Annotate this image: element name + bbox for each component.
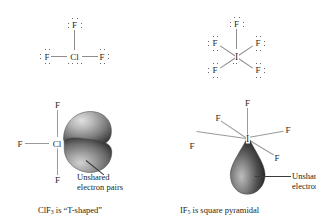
lone-pair-dot [256, 77, 257, 78]
annotation-line-1: Unshared [292, 171, 316, 181]
leader-line-unshared-pair [255, 176, 291, 177]
lone-pair-dot [108, 54, 109, 55]
lone-pair-dot [260, 63, 261, 64]
lone-pair-dot [208, 45, 209, 46]
central-lone-pair-dot [72, 63, 73, 64]
unshared-electron-pair-lobes [62, 110, 114, 174]
bond-cl-f-top [57, 110, 58, 137]
atom-f-lower-left: F [212, 66, 218, 75]
caption-clf3: ClF3 is “T-shaped” [38, 205, 102, 215]
unshared-electron-pair-lobe [229, 134, 267, 195]
annotation-unshared-electron-pairs: Unshared electron pairs [77, 172, 123, 192]
atom-f-lower-right: F [255, 66, 261, 75]
atom-f-back-left: F [215, 114, 221, 123]
atom-f-upper-right: F [255, 39, 261, 48]
lone-pair-dot [213, 50, 214, 51]
lone-pair-dot [217, 50, 218, 51]
atom-f-upper-left: F [212, 39, 218, 48]
central-lone-pair-dot [236, 63, 237, 64]
central-lone-pair-dot [77, 63, 78, 64]
lone-pair-dot [260, 77, 261, 78]
lone-pair-dot [217, 63, 218, 64]
panel-if5-lewis: F F F I F F [158, 0, 316, 90]
lone-pair-dot [213, 77, 214, 78]
central-lone-pair-dot [233, 63, 234, 64]
lone-pair-dot [239, 17, 240, 18]
lone-pair-dot [213, 63, 214, 64]
atom-f-top: F [71, 21, 77, 30]
caption-formula-prefix: IF [180, 205, 188, 215]
bond-cl-f-right [82, 56, 98, 57]
atom-f-left: F [189, 142, 195, 151]
lone-pair-dot [208, 72, 209, 73]
lone-pair-dot [217, 77, 218, 78]
annotation-line-2: electron pairs [77, 182, 123, 192]
caption-text-suffix: is “T-shaped” [54, 205, 102, 215]
atom-f-apical: F [233, 20, 239, 29]
bond-cl-f-bottom [57, 148, 58, 175]
atom-cl-center: Cl [70, 52, 80, 61]
lone-pair-dot [256, 50, 257, 51]
lone-pair-dot [40, 54, 41, 55]
atom-f-left: F [44, 52, 50, 61]
atom-f-apical: F [244, 99, 250, 108]
lone-pair-dot [230, 26, 231, 27]
lone-pair-dot [81, 23, 82, 24]
lone-pair-dot [108, 58, 109, 59]
lone-pair-dot [264, 72, 265, 73]
annotation-line-2: electron pair [292, 181, 316, 191]
caption-text-suffix: is square pyramidal [190, 205, 259, 215]
central-lone-pair-dot [68, 63, 69, 64]
lone-pair-dot [243, 22, 244, 23]
atom-f-right: F [285, 126, 291, 135]
panel-clf3-lewis: F F Cl F [0, 0, 158, 90]
lone-pair-dot [256, 63, 257, 64]
lone-pair-dot [77, 18, 78, 19]
figure-root: { "figure": { "title": "", "type": "chem… [0, 0, 316, 224]
atom-f-front-right: F [274, 154, 280, 163]
lone-pair-dot [213, 36, 214, 37]
atom-cl-center: Cl [52, 139, 62, 148]
atom-f-left: F [17, 139, 23, 148]
lone-pair-dot [68, 27, 69, 28]
lone-pair-dot [260, 36, 261, 37]
lone-pair-dot [264, 45, 265, 46]
lone-pair-dot [256, 36, 257, 37]
central-lone-pair-dot [81, 63, 82, 64]
lone-pair-dot [49, 63, 50, 64]
lone-pair-dot [40, 58, 41, 59]
caption-formula-prefix: ClF [38, 205, 51, 215]
panel-clf3-geometry: F F Cl F Unshared electron pairs ClF3 is… [0, 90, 158, 224]
bond-i-f-upper-right [237, 45, 253, 56]
bond-cl-f-left [25, 143, 49, 144]
panel-if5-geometry: F F F F I F Unshared electron pair IF5 i… [158, 90, 316, 224]
lone-pair-dot [243, 26, 244, 27]
lone-pair-dot [217, 36, 218, 37]
bond-cl-f-left [51, 56, 67, 57]
lone-pair-dot [208, 41, 209, 42]
lone-pair-dot [264, 41, 265, 42]
atom-i-center: I [234, 52, 238, 61]
lone-pair-dot [81, 27, 82, 28]
bond-i-f-apical [236, 29, 237, 49]
lone-pair-dot [264, 68, 265, 69]
caption-if5: IF5 is square pyramidal [180, 205, 259, 215]
lone-pair-dot [104, 63, 105, 64]
lone-pair-dot [68, 23, 69, 24]
atom-f-bottom: F [54, 176, 60, 185]
atom-i-center: I [245, 134, 249, 143]
annotation-unshared-electron-pair: Unshared electron pair [292, 171, 316, 191]
lone-pair-dot [208, 68, 209, 69]
bond-i-f-lower-right [237, 57, 253, 68]
lone-pair-dot [230, 22, 231, 23]
bond-cl-f-top [74, 30, 75, 50]
lone-pair-dot [260, 50, 261, 51]
lone-pair-dot [100, 63, 101, 64]
atom-f-top: F [54, 101, 60, 110]
atom-f-right: F [99, 52, 105, 61]
lone-pair-dot [45, 63, 46, 64]
